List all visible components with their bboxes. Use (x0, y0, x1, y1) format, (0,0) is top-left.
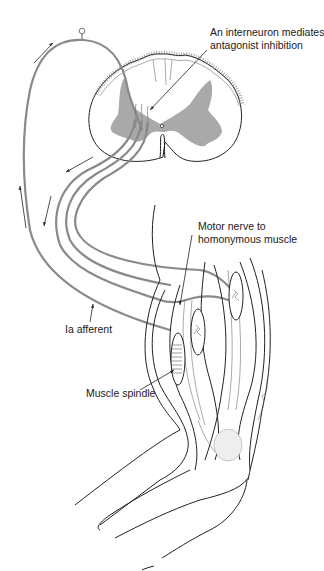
motor-endplate-1 (191, 309, 205, 355)
motor-nerve-label-line2: homonymous muscle (198, 233, 297, 246)
interneuron-label-line1: An interneuron mediates (210, 26, 324, 39)
motor-nerve-label: Motor nerve to homonymous muscle (198, 220, 297, 246)
interneuron-label: An interneuron mediates antagonist inhib… (210, 26, 324, 52)
ia-afferent-fiber (24, 28, 170, 330)
arrow-down-icon (43, 196, 51, 226)
muscle-spindle-label: Muscle spindle (86, 387, 155, 400)
dorsal-root-ganglion-icon (79, 28, 85, 34)
motor-endplate-2 (229, 272, 243, 320)
ia-afferent-label: Ia afferent (65, 323, 112, 336)
arrow-up-right-icon (34, 43, 53, 63)
arrow-up-small-icon (90, 304, 94, 322)
muscle-spindle (171, 333, 185, 385)
direction-arrows (19, 43, 95, 322)
interneuron-label-line2: antagonist inhibition (210, 39, 324, 52)
stretch-reflex-diagram (0, 0, 324, 571)
spinal-cord-cross-section (89, 53, 243, 162)
motor-nerve-label-line1: Motor nerve to (198, 220, 297, 233)
